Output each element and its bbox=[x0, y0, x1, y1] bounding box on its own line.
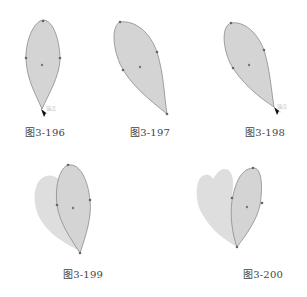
petal-shape bbox=[100, 0, 205, 120]
figure-caption: 图3-196 bbox=[25, 124, 65, 139]
anchor-point-icon bbox=[263, 49, 266, 52]
figure-3-197: 图3-197 bbox=[100, 0, 205, 135]
petal-shape bbox=[200, 0, 307, 120]
figure-3-199: 图3-199 bbox=[30, 155, 160, 297]
anchor-point-icon bbox=[122, 69, 125, 72]
figure-caption: 图3-197 bbox=[130, 124, 170, 139]
figure-3-196: 锚点 图3-196 bbox=[0, 0, 100, 135]
petal-shape bbox=[0, 0, 100, 120]
center-point-icon bbox=[139, 66, 141, 68]
anchor-point-icon bbox=[25, 57, 28, 60]
anchor-point-icon bbox=[232, 67, 235, 70]
anchor-point-icon bbox=[119, 21, 122, 24]
center-point-icon bbox=[248, 64, 250, 66]
figure-caption: 图3-200 bbox=[243, 266, 283, 281]
anchor-point-icon bbox=[230, 22, 233, 25]
anchor-point-icon bbox=[252, 167, 255, 170]
figure-3-198: 锚点 图3-198 bbox=[200, 0, 307, 135]
anchor-point-icon bbox=[156, 51, 159, 54]
anchor-tooltip: 锚点 bbox=[46, 104, 56, 111]
anchor-point-icon bbox=[89, 199, 92, 202]
center-point-icon bbox=[246, 206, 248, 208]
anchor-point-icon bbox=[79, 252, 82, 255]
petal-pair bbox=[180, 155, 307, 265]
petal-pair bbox=[30, 155, 160, 265]
center-point-icon bbox=[72, 207, 74, 209]
figure-3-200: 图3-200 bbox=[180, 155, 307, 297]
anchor-point-icon bbox=[231, 197, 234, 200]
anchor-tooltip: 锚点 bbox=[277, 102, 287, 109]
anchor-point-icon bbox=[56, 204, 59, 207]
anchor-point-icon bbox=[59, 57, 62, 60]
figure-caption: 图3-198 bbox=[245, 124, 285, 139]
anchor-point-icon bbox=[67, 164, 70, 167]
figure-caption: 图3-199 bbox=[63, 266, 103, 281]
anchor-point-icon bbox=[42, 20, 45, 23]
anchor-point-icon bbox=[236, 246, 239, 249]
anchor-point-icon bbox=[261, 202, 264, 205]
anchor-point-icon bbox=[166, 113, 169, 116]
center-point-icon bbox=[41, 64, 43, 66]
